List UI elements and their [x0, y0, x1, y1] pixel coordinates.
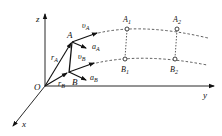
label-z: z	[35, 14, 40, 24]
label-ab: aB	[90, 73, 98, 83]
label-b1: B1	[121, 65, 129, 75]
label-ra: rA	[51, 53, 58, 63]
label-x: x	[21, 119, 26, 129]
point-a2	[175, 27, 179, 31]
vector-va	[72, 33, 97, 42]
link-a2-b2	[175, 30, 177, 58]
vector-aa	[72, 42, 86, 48]
label-b: B	[72, 77, 78, 87]
diagram-canvas: z y x O A B A1 A2 B1 B2 rA rB υA υB aA a…	[0, 0, 222, 136]
link-a1-b1	[125, 30, 127, 58]
label-rb: rB	[58, 79, 65, 89]
label-va: υA	[82, 21, 90, 31]
label-vb: υB	[78, 52, 86, 62]
label-b2: B2	[170, 65, 178, 75]
trajectory-b	[92, 58, 207, 65]
x-axis	[13, 86, 45, 126]
kinematics-diagram: z y x O A B A1 A2 B1 B2 rA rB υA υB aA a…	[0, 0, 222, 136]
vector-vb	[69, 63, 94, 72]
label-aa: aA	[92, 42, 100, 52]
point-b1	[123, 57, 127, 61]
label-a: A	[66, 30, 73, 40]
point-a1	[125, 27, 129, 31]
label-y: y	[202, 90, 207, 100]
link-ab	[69, 42, 72, 73]
label-origin: O	[34, 82, 41, 92]
trajectory-a	[94, 29, 208, 38]
point-b2	[173, 57, 177, 61]
label-a1: A1	[122, 15, 131, 25]
label-a2: A2	[172, 15, 181, 25]
